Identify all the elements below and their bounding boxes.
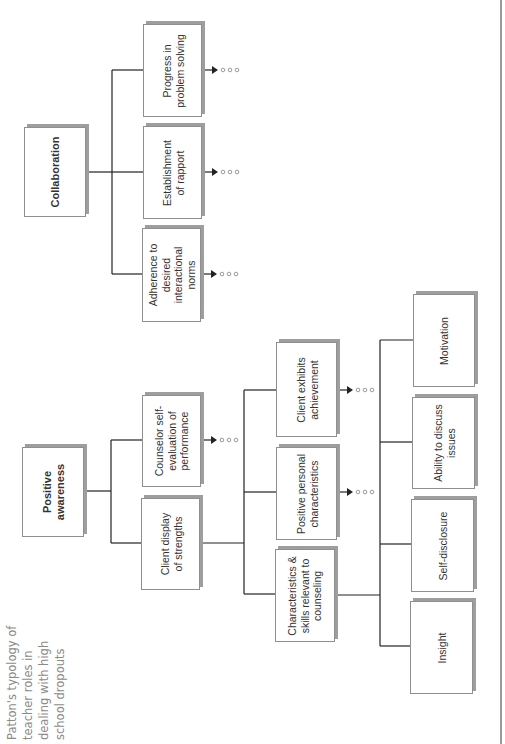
- node-label: Client display of strengths: [158, 509, 183, 579]
- node-label: Insight: [435, 603, 448, 693]
- node-positive-personal-characteristics: Positive personal characteristics: [276, 447, 337, 540]
- node-insight: Insight: [410, 601, 473, 694]
- node-label: Client exhibits achievement: [294, 350, 319, 430]
- node-counselor-self-evaluation: Counselor self-evaluation of performance: [142, 395, 201, 487]
- node-label: Positive awareness: [41, 462, 66, 522]
- node-client-exhibits-achievement: Client exhibits achievement: [276, 342, 337, 437]
- node-ability-to-discuss-issues: Ability to discuss issues: [412, 397, 475, 489]
- node-label: Self-disclosure: [436, 501, 449, 591]
- node-client-display-of-strengths: Client display of strengths: [141, 498, 200, 590]
- node-label: Characteristics & skills relevant to cou…: [286, 551, 324, 641]
- node-label: Motivation: [438, 296, 451, 386]
- node-label: Positive personal characteristics: [294, 449, 319, 539]
- node-label: Adherence to desired interactional norms: [147, 239, 197, 311]
- node-label: Counselor self-evaluation of performance: [153, 396, 191, 486]
- node-collaboration: Collaboration: [24, 127, 86, 217]
- node-label: Progress in problem solving: [160, 26, 185, 116]
- node-label: Collaboration: [49, 127, 62, 217]
- node-positive-awareness: Positive awareness: [22, 447, 84, 537]
- node-label: Establishment of rapport: [160, 138, 185, 208]
- node-label: Ability to discuss issues: [431, 398, 456, 488]
- node-characteristics-skills: Characteristics & skills relevant to cou…: [275, 549, 335, 642]
- node-self-disclosure: Self-disclosure: [411, 499, 474, 592]
- node-adherence-to-norms: Adherence to desired interactional norms: [142, 228, 201, 322]
- node-motivation: Motivation: [413, 294, 475, 387]
- node-establishment-of-rapport: Establishment of rapport: [143, 126, 202, 219]
- node-progress-in-problem-solving: Progress in problem solving: [143, 24, 202, 117]
